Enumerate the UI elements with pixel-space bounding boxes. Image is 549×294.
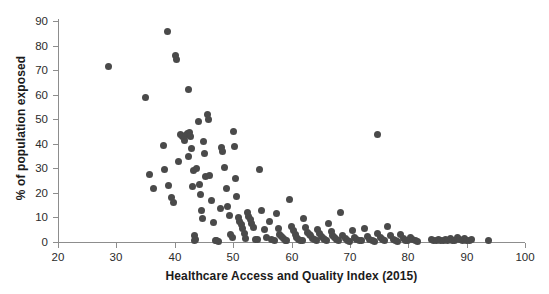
data-point bbox=[221, 164, 228, 171]
data-point bbox=[223, 185, 230, 192]
x-tick-label: 60 bbox=[272, 250, 312, 264]
data-point bbox=[142, 94, 149, 101]
data-point bbox=[361, 225, 368, 232]
data-point bbox=[205, 116, 212, 123]
data-point bbox=[242, 235, 249, 242]
plot-area: 0102030405060708090 2030405060708090100 bbox=[0, 0, 549, 294]
data-point bbox=[381, 237, 388, 244]
data-point bbox=[286, 196, 293, 203]
data-point bbox=[323, 237, 330, 244]
data-point bbox=[337, 209, 344, 216]
data-point bbox=[232, 175, 239, 182]
data-point bbox=[283, 237, 290, 244]
data-point bbox=[271, 237, 278, 244]
data-point bbox=[187, 133, 194, 140]
data-point bbox=[224, 203, 231, 210]
data-point bbox=[173, 56, 180, 63]
data-point bbox=[215, 238, 222, 245]
data-point bbox=[175, 158, 182, 165]
x-tick-label: 70 bbox=[330, 250, 370, 264]
data-point bbox=[273, 210, 280, 217]
data-point bbox=[206, 172, 213, 179]
data-point bbox=[196, 181, 203, 188]
data-point bbox=[200, 138, 207, 145]
data-point bbox=[185, 86, 192, 93]
data-point bbox=[230, 128, 237, 135]
data-point bbox=[195, 118, 202, 125]
x-tick-label: 80 bbox=[388, 250, 428, 264]
data-point bbox=[254, 236, 261, 243]
x-tick-label: 20 bbox=[38, 250, 78, 264]
scatter-chart: 0102030405060708090 2030405060708090100 … bbox=[0, 0, 549, 294]
y-tick-mark bbox=[53, 144, 58, 145]
data-point bbox=[226, 212, 233, 219]
data-point bbox=[146, 171, 153, 178]
data-point bbox=[150, 185, 157, 192]
data-point bbox=[258, 207, 265, 214]
x-tick-label: 50 bbox=[213, 250, 253, 264]
data-point bbox=[210, 219, 217, 226]
y-axis-line bbox=[58, 19, 59, 243]
data-point bbox=[229, 234, 236, 241]
data-point bbox=[160, 142, 167, 149]
data-point bbox=[299, 237, 306, 244]
data-point bbox=[105, 63, 112, 70]
data-point bbox=[325, 220, 332, 227]
data-point bbox=[170, 199, 177, 206]
data-point bbox=[231, 143, 238, 150]
data-point bbox=[250, 224, 257, 231]
x-tick-label: 100 bbox=[505, 250, 545, 264]
x-tick-label: 90 bbox=[447, 250, 487, 264]
data-point bbox=[233, 193, 240, 200]
data-point bbox=[384, 223, 391, 230]
data-point bbox=[256, 166, 263, 173]
data-point bbox=[217, 205, 224, 212]
x-tick-mark bbox=[233, 243, 234, 248]
x-tick-mark bbox=[58, 243, 59, 248]
y-tick-mark bbox=[53, 70, 58, 71]
y-tick-mark bbox=[53, 217, 58, 218]
x-tick-label: 30 bbox=[96, 250, 136, 264]
x-axis-title: Healthcare Access and Quality Index (201… bbox=[58, 269, 525, 283]
data-point bbox=[199, 215, 206, 222]
data-point bbox=[261, 226, 268, 233]
data-point bbox=[219, 148, 226, 155]
data-point bbox=[189, 183, 196, 190]
data-point bbox=[197, 191, 204, 198]
y-axis-title: % of population exposed bbox=[14, 16, 28, 240]
y-tick-mark bbox=[53, 46, 58, 47]
data-point bbox=[300, 215, 307, 222]
x-tick-mark bbox=[292, 243, 293, 248]
x-tick-label: 40 bbox=[155, 250, 195, 264]
data-point bbox=[198, 207, 205, 214]
y-tick-mark bbox=[53, 193, 58, 194]
data-point bbox=[188, 145, 195, 152]
y-tick-mark bbox=[53, 168, 58, 169]
data-point bbox=[161, 166, 168, 173]
y-tick-mark bbox=[53, 119, 58, 120]
data-point bbox=[164, 28, 171, 35]
data-point bbox=[208, 197, 215, 204]
data-point bbox=[165, 182, 172, 189]
y-tick-mark bbox=[53, 95, 58, 96]
x-tick-mark bbox=[116, 243, 117, 248]
x-tick-mark bbox=[525, 243, 526, 248]
y-tick-mark bbox=[53, 21, 58, 22]
data-point bbox=[414, 238, 421, 245]
data-point bbox=[374, 131, 381, 138]
x-tick-mark bbox=[175, 243, 176, 248]
data-point bbox=[266, 218, 273, 225]
data-point bbox=[193, 165, 200, 172]
data-point bbox=[201, 150, 208, 157]
data-point bbox=[185, 153, 192, 160]
